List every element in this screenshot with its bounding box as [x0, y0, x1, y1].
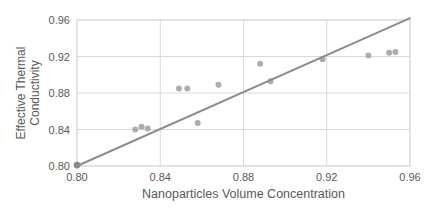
x-tick-label: 0.96 — [399, 171, 420, 183]
scatter-chart: 0.800.840.880.920.960.800.840.880.920.96… — [0, 0, 436, 211]
scatter-point — [195, 120, 201, 126]
y-tick-label: 0.84 — [49, 124, 70, 136]
scatter-point — [132, 127, 138, 133]
y-axis-title-line-2: Conductivity — [28, 23, 42, 163]
scatter-point — [386, 50, 392, 56]
scatter-point — [216, 82, 222, 88]
x-tick-label: 0.92 — [316, 171, 337, 183]
x-tick-label: 0.80 — [66, 171, 87, 183]
y-axis-title-line-1: Effective Thermal — [14, 23, 28, 163]
scatter-point — [365, 53, 371, 59]
x-tick-label: 0.88 — [233, 171, 254, 183]
x-tick-label: 0.84 — [150, 171, 171, 183]
y-tick-label: 0.96 — [49, 14, 70, 26]
y-tick-label: 0.92 — [49, 51, 70, 63]
x-axis-title: Nanoparticles Volume Concentration — [77, 187, 410, 201]
y-tick-label: 0.88 — [49, 87, 70, 99]
plot-canvas: 0.800.840.880.920.960.800.840.880.920.96 — [0, 0, 436, 211]
scatter-point — [139, 124, 145, 130]
scatter-point — [257, 61, 263, 67]
scatter-point — [145, 126, 151, 132]
y-tick-label: 0.80 — [49, 160, 70, 172]
scatter-point — [176, 85, 182, 91]
scatter-point — [392, 49, 398, 55]
scatter-point — [184, 85, 190, 91]
y-axis-title: Effective Thermal Conductivity — [14, 23, 44, 163]
